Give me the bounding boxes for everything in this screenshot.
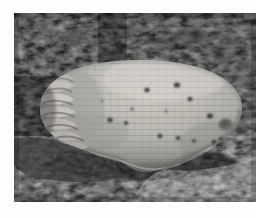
paper-margin-top — [0, 0, 256, 13]
photograph-canvas — [14, 13, 256, 202]
paper-margin-left — [0, 0, 14, 218]
screenshot-root: Grayscale underwater photograph of a pal… — [0, 0, 256, 218]
photograph — [14, 13, 256, 202]
film-grain — [14, 13, 256, 202]
paper-margin-bottom — [0, 202, 256, 218]
